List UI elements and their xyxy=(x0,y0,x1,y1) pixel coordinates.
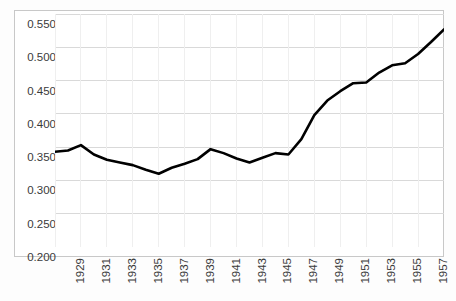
x-axis-tick-label: 1955 xyxy=(411,258,423,284)
x-axis-tick-label: 1933 xyxy=(126,258,138,284)
x-axis-tick-label: 1937 xyxy=(178,258,190,284)
x-axis-tick-label-text: 1955 xyxy=(411,258,423,284)
horizontal-gridlines xyxy=(55,14,444,247)
x-axis-tick-label-text: 1941 xyxy=(230,258,242,284)
x-axis-tick-label: 1949 xyxy=(333,258,345,284)
x-axis-tick-label: 1931 xyxy=(100,258,112,284)
vertical-gridlines xyxy=(55,14,444,247)
x-axis-tick-label-text: 1947 xyxy=(307,258,319,284)
x-axis-tick-label: 1947 xyxy=(307,258,319,284)
x-axis-tick-label-text: 1933 xyxy=(126,258,138,284)
chart-container: 0.5500.5000.4500.4000.3500.3000.2500.200… xyxy=(0,0,456,301)
data-series-line xyxy=(55,29,444,173)
x-axis-tick-label: 1929 xyxy=(74,258,86,284)
x-axis-tick-label-text: 1951 xyxy=(359,258,371,284)
y-axis-tick-label: 0.550 xyxy=(27,19,56,30)
y-axis-tick-label: 0.350 xyxy=(27,152,56,163)
x-axis-tick-label-text: 1953 xyxy=(385,258,397,284)
x-axis-tick-label: 1951 xyxy=(359,258,371,284)
x-axis-tick-label: 1939 xyxy=(204,258,216,284)
y-axis-tick-labels: 0.5500.5000.4500.4000.3500.3000.2500.200 xyxy=(14,10,60,257)
x-axis-tick-label: 1935 xyxy=(152,258,164,284)
y-axis-tick-label: 0.500 xyxy=(27,52,56,63)
x-axis-tick-label-text: 1937 xyxy=(178,258,190,284)
y-axis-tick-label: 0.250 xyxy=(27,218,56,229)
y-axis-tick-label: 0.450 xyxy=(27,85,56,96)
x-axis-tick-label: 1943 xyxy=(256,258,268,284)
y-axis-tick-label: 0.300 xyxy=(27,185,56,196)
x-axis-tick-label-text: 1931 xyxy=(100,258,112,284)
line-chart-svg xyxy=(55,14,444,247)
x-axis-tick-label: 1957 xyxy=(437,258,449,284)
x-axis-tick-label: 1941 xyxy=(230,258,242,284)
x-axis-tick-label: 1945 xyxy=(281,258,293,284)
x-axis-tick-label-text: 1935 xyxy=(152,258,164,284)
plot-area xyxy=(55,14,444,247)
x-axis-tick-label-text: 1939 xyxy=(204,258,216,284)
x-axis-tick-label-text: 1929 xyxy=(74,258,86,284)
x-axis-tick-label-text: 1957 xyxy=(437,258,449,284)
x-axis-tick-label-text: 1943 xyxy=(256,258,268,284)
x-axis-tick-labels: 1929193119331935193719391941194319451947… xyxy=(0,258,456,301)
x-axis-tick-label-text: 1945 xyxy=(281,258,293,284)
y-axis-tick-label: 0.400 xyxy=(27,118,56,129)
x-axis-tick-label: 1953 xyxy=(385,258,397,284)
x-axis-tick-label-text: 1949 xyxy=(333,258,345,284)
